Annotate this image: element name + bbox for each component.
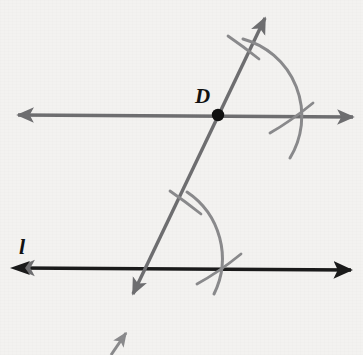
line-l-label: l — [19, 236, 25, 258]
geometry-figure: D l — [0, 0, 363, 355]
transversal-line — [133, 18, 265, 294]
point-D-dot — [212, 109, 224, 121]
lower-line-l — [18, 268, 351, 270]
upper-compass-arc — [243, 39, 302, 158]
figure-canvas — [0, 0, 363, 355]
point-D-label: D — [195, 86, 210, 107]
transversal-bottom-fragment — [111, 333, 126, 355]
